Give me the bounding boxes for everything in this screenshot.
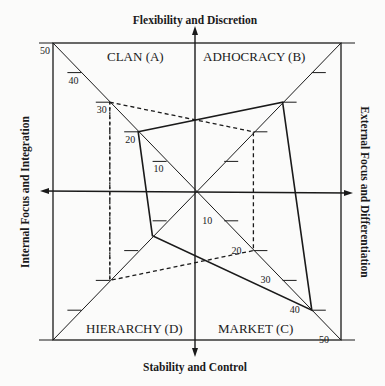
tick-label-C-10: 10 [202,215,212,226]
axis-title-top: Flexibility and Discretion [133,14,258,27]
tick-label-C-30: 30 [261,274,271,285]
tick-label-C-50: 50 [319,334,329,345]
tick-label-A-30: 30 [97,104,107,115]
axis-title-right: External Focus and Differentiation [359,106,371,278]
profile-solid [138,102,312,310]
axis-title-bottom: Stability and Control [143,361,247,374]
arrow-down-icon [192,348,198,357]
quadrant-label-adhocracy: ADHOCRACY (B) [203,49,305,64]
tick-label-A-10: 10 [154,163,164,174]
tick-marks: 10203040501020304050 [39,43,355,345]
tick-label-A-50: 50 [40,45,50,56]
quadrant-label-hierarchy: HIERARCHY (D) [86,321,183,336]
quadrant-label-market: MARKET (C) [218,321,293,336]
tick-label-C-40: 40 [290,304,300,315]
axis-title-left: Internal Focus and Integration [19,116,32,268]
quadrant-label-clan: CLAN (A) [107,49,164,64]
tick-label-A-40: 40 [68,75,78,86]
tick-label-A-20: 20 [125,134,135,145]
arrow-up-icon [192,26,198,35]
arrow-right-icon [344,190,353,196]
arrow-left-icon [40,188,49,194]
horizontal-axis [44,191,349,193]
competing-values-diagram: 10203040501020304050 Flexibility and Dis… [0,0,385,386]
